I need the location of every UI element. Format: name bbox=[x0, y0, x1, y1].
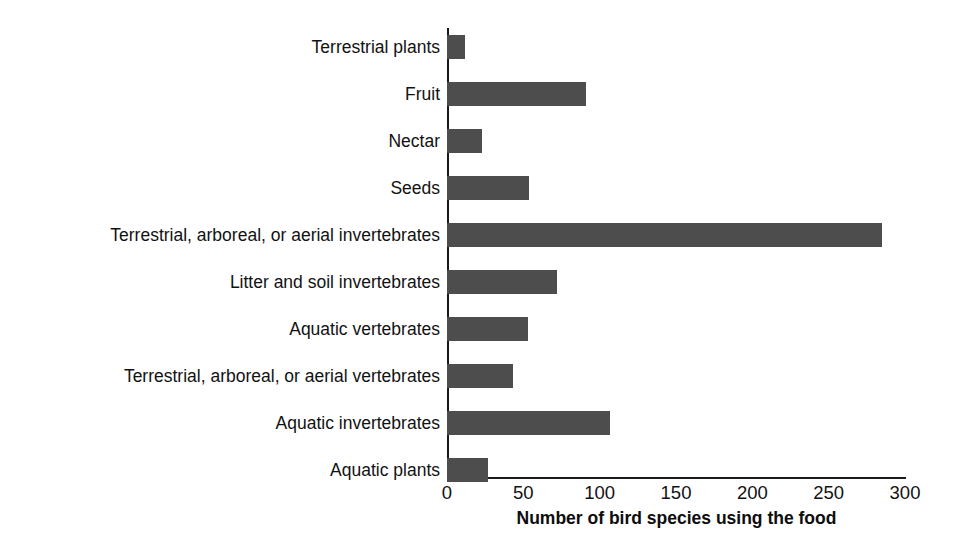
bar-row: Aquatic vertebrates bbox=[447, 317, 905, 341]
x-axis-tick-label: 50 bbox=[483, 482, 563, 504]
bar-row: Aquatic plants bbox=[447, 458, 905, 482]
bar bbox=[447, 223, 882, 247]
bar bbox=[447, 317, 528, 341]
x-axis-tick-label: 150 bbox=[636, 482, 716, 504]
bar-category-label: Aquatic vertebrates bbox=[289, 317, 440, 341]
bar-row: Terrestrial, arboreal, or aerial inverte… bbox=[447, 223, 905, 247]
bar bbox=[447, 411, 610, 435]
bar bbox=[447, 270, 557, 294]
bar-category-label: Seeds bbox=[390, 176, 440, 200]
bar-category-label: Litter and soil invertebrates bbox=[230, 270, 440, 294]
bar bbox=[447, 35, 465, 59]
bar-row: Fruit bbox=[447, 82, 905, 106]
bar-row: Terrestrial, arboreal, or aerial vertebr… bbox=[447, 364, 905, 388]
bar bbox=[447, 176, 529, 200]
bar-category-label: Nectar bbox=[388, 129, 440, 153]
x-axis-title: Number of bird species using the food bbox=[447, 508, 906, 529]
bar-row: Litter and soil invertebrates bbox=[447, 270, 905, 294]
x-axis-tick-label: 200 bbox=[712, 482, 792, 504]
bar bbox=[447, 129, 482, 153]
x-axis-tick-label: 250 bbox=[789, 482, 869, 504]
bar-chart-figure: Terrestrial plantsFruitNectarSeedsTerres… bbox=[0, 0, 954, 556]
bar-category-label: Terrestrial plants bbox=[312, 35, 440, 59]
plot-area: Terrestrial plantsFruitNectarSeedsTerres… bbox=[447, 28, 905, 477]
bar-category-label: Aquatic invertebrates bbox=[276, 411, 440, 435]
bar-row: Seeds bbox=[447, 176, 905, 200]
x-axis-tick-label: 100 bbox=[560, 482, 640, 504]
bar-category-label: Terrestrial, arboreal, or aerial vertebr… bbox=[124, 364, 440, 388]
bar-category-label: Fruit bbox=[405, 82, 440, 106]
bar-row: Aquatic invertebrates bbox=[447, 411, 905, 435]
x-axis-tick-label: 300 bbox=[865, 482, 945, 504]
bar bbox=[447, 82, 586, 106]
x-axis-tick-label: 0 bbox=[407, 482, 487, 504]
bar-row: Terrestrial plants bbox=[447, 35, 905, 59]
bar-category-label: Aquatic plants bbox=[330, 458, 440, 482]
bar-category-label: Terrestrial, arboreal, or aerial inverte… bbox=[110, 223, 440, 247]
bar bbox=[447, 364, 513, 388]
bar-row: Nectar bbox=[447, 129, 905, 153]
bar bbox=[447, 458, 488, 482]
